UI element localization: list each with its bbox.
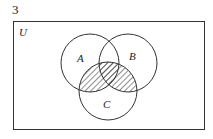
universal-set-label: U	[19, 26, 28, 38]
venn-diagram: U A B C	[0, 0, 213, 139]
set-a-label: A	[76, 52, 84, 64]
shaded-region	[61, 34, 157, 92]
set-b-label: B	[129, 50, 136, 62]
set-c-label: C	[103, 98, 111, 110]
